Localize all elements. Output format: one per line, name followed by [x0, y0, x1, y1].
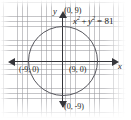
x-axis-left-arrow-icon	[8, 58, 15, 66]
equation-operator: +	[82, 16, 87, 26]
x-axis-label: x	[118, 62, 122, 71]
equation-annotation: x2+y2= 81	[73, 17, 113, 26]
point-label-top: (0, 9)	[64, 7, 81, 15]
y-axis-label: y	[53, 7, 57, 16]
equation-right-side: = 81	[97, 16, 113, 26]
circle-graph-figure: (0, 9) (9, 0) (-9, 0) (0, -9) x y x2+y2=…	[0, 0, 131, 120]
equation-exponent-y: 2	[92, 15, 95, 21]
point-label-bottom: (0, -9)	[64, 103, 84, 111]
equation-exponent-x: 2	[77, 15, 80, 21]
circle-curve	[28, 26, 98, 96]
point-label-right: (9, 0)	[69, 66, 86, 74]
point-label-left: (-9, 0)	[19, 66, 39, 74]
